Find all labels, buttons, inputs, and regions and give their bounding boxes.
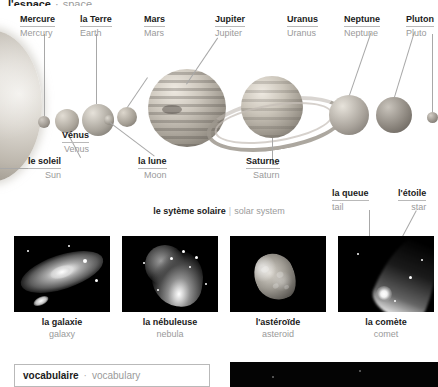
label-neptune-fr: Neptune (344, 14, 380, 25)
label-uranus-fr: Uranus (287, 14, 318, 25)
asteroid-photo (230, 236, 326, 312)
pluto-icon (427, 112, 438, 123)
label-neptune-en: Neptune (344, 26, 380, 39)
label-uranus: Uranus Uranus (287, 14, 318, 39)
caption-galaxy-en: galaxy (14, 328, 110, 340)
solar-system-diagram: Mercure Mercury la Terre Earth Mars Mars… (0, 12, 438, 192)
uranus-icon (329, 95, 369, 135)
star-icon (205, 283, 207, 285)
label-comet-tail: la queue tail (332, 188, 369, 213)
caption-asteroid-fr: l'astéroïde (230, 316, 326, 328)
label-comet-star: l'étoile star (398, 188, 426, 213)
star-icon (195, 256, 198, 259)
label-saturn-fr: Saturne (246, 156, 280, 167)
comet-tail-icon (367, 236, 434, 312)
label-moon: la lune Moon (138, 156, 167, 181)
label-venus-en: Venus (62, 142, 89, 155)
caption-comet: la comète comet (338, 316, 434, 340)
caption-asteroid: l'astéroïde asteroid (230, 316, 326, 340)
label-sun-fr: le soleil (28, 156, 61, 167)
label-mars: Mars Mars (144, 14, 165, 39)
mercury-icon (38, 116, 50, 128)
star-icon (421, 259, 423, 261)
leader-pluto (432, 34, 433, 112)
neptune-icon (376, 97, 412, 133)
page-title-fr: l'espace (8, 0, 51, 6)
star-icon (143, 262, 145, 264)
label-neptune: Neptune Neptune (344, 14, 380, 39)
caption-nebula-en: nebula (122, 328, 218, 340)
star-icon (68, 245, 70, 247)
nebula-photo (122, 236, 218, 312)
caption-comet-en: comet (338, 328, 434, 340)
solar-system-caption: le sytème solaire|solar system (0, 200, 438, 218)
space-vocabulary-page: l'espace·space Mercure Mercur (0, 0, 438, 387)
label-mercury-fr: Mercure (20, 14, 55, 25)
label-mercury-en: Mercury (20, 26, 55, 39)
galaxy-companion-icon (32, 294, 50, 308)
label-mars-en: Mars (144, 26, 165, 39)
label-jupiter-fr: Jupiter (215, 14, 245, 25)
solar-system-caption-fr: le sytème solaire (153, 206, 226, 216)
page-title: l'espace·space (8, 0, 208, 6)
label-moon-en: Moon (138, 168, 167, 181)
star-icon (409, 276, 412, 279)
caption-comet-fr: la comète (338, 316, 434, 328)
crater-icon (283, 284, 289, 290)
deep-sky-gallery: la galaxie galaxy la nébuleuse nebula (0, 236, 438, 346)
comet-photo (338, 236, 434, 312)
leader-mars (127, 77, 148, 107)
label-uranus-en: Uranus (287, 26, 318, 39)
leader-moon (109, 122, 154, 157)
label-earth: la Terre Earth (80, 14, 112, 39)
galaxy-photo (14, 236, 110, 312)
label-venus: Vénus Venus (62, 130, 89, 155)
caption-galaxy-fr: la galaxie (14, 316, 110, 328)
caption-asteroid-en: asteroid (230, 328, 326, 340)
night-sky-panel (230, 362, 438, 387)
caption-galaxy: la galaxie galaxy (14, 316, 110, 340)
leader-neptune (394, 32, 415, 97)
asteroid-body-icon (247, 247, 303, 307)
page-title-en: space (63, 0, 92, 6)
page-title-separator: · (51, 0, 63, 6)
star-icon (359, 370, 361, 372)
crater-icon (260, 264, 270, 273)
vocabulary-header-en: vocabulary (92, 370, 140, 381)
label-earth-en: Earth (80, 26, 112, 39)
label-venus-fr: Vénus (62, 130, 89, 141)
label-mercury: Mercure Mercury (20, 14, 55, 39)
solar-system-caption-separator: | (226, 206, 234, 216)
leader-uranus (349, 33, 371, 96)
vocabulary-header-box: vocabulaire·vocabulary (14, 364, 210, 387)
vocabulary-header-fr: vocabulaire (23, 370, 79, 381)
label-pluto-en: Pluto (406, 26, 434, 39)
label-jupiter: Jupiter Jupiter (215, 14, 245, 39)
label-comet-star-en: star (398, 200, 426, 213)
caption-nebula-fr: la nébuleuse (122, 316, 218, 328)
label-jupiter-en: Jupiter (215, 26, 245, 39)
caption-nebula: la nébuleuse nebula (122, 316, 218, 340)
star-icon (272, 376, 274, 378)
star-icon (394, 300, 396, 302)
label-mars-fr: Mars (144, 14, 165, 25)
label-saturn: Saturne Saturn (246, 156, 280, 181)
label-comet-tail-en: tail (332, 200, 369, 213)
label-moon-fr: la lune (138, 156, 167, 167)
label-comet-tail-fr: la queue (332, 188, 369, 199)
star-icon (27, 250, 29, 252)
star-icon (182, 250, 185, 253)
label-saturn-en: Saturn (246, 168, 280, 181)
label-comet-star-fr: l'étoile (398, 188, 426, 199)
crater-icon (271, 282, 279, 289)
label-earth-fr: la Terre (80, 14, 112, 25)
leader-mercury (44, 34, 45, 116)
solar-system-caption-en: solar system (234, 206, 285, 216)
star-icon (357, 253, 359, 255)
label-pluto-fr: Pluton (406, 14, 434, 25)
star-icon (157, 289, 159, 291)
crater-icon (275, 271, 284, 279)
mars-icon (117, 107, 137, 127)
vocabulary-header-separator: · (79, 370, 92, 381)
label-sun-en: Sun (28, 168, 61, 181)
